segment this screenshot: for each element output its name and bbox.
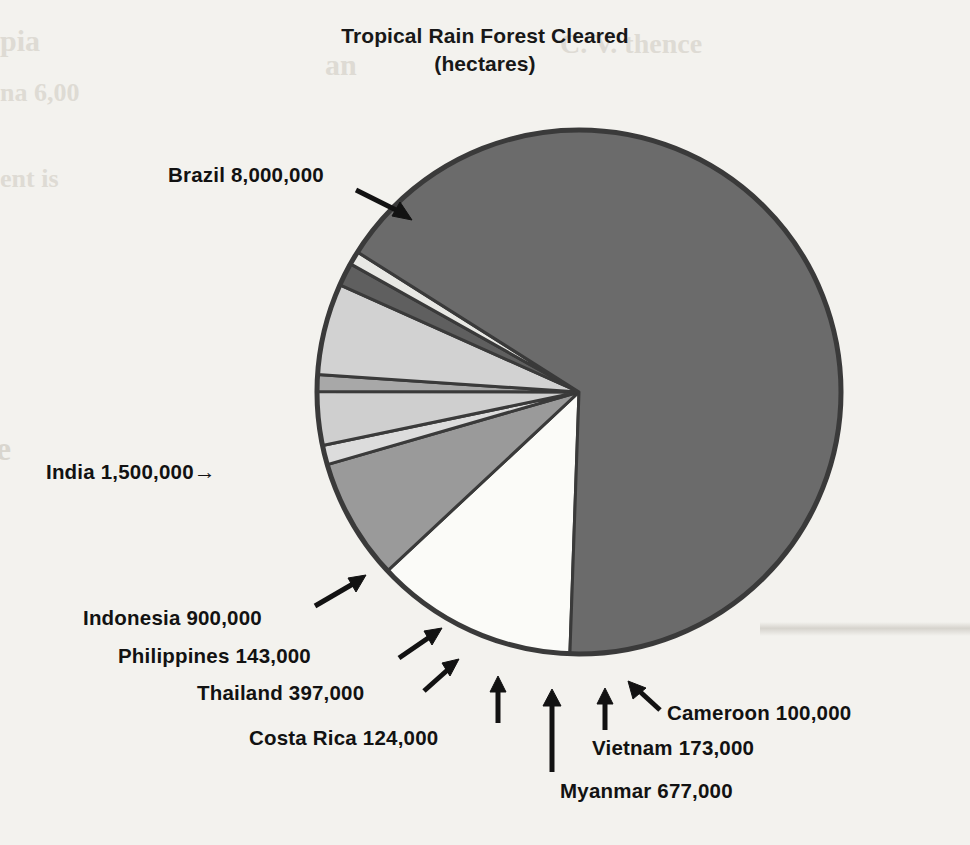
- leader-arrow-myanmar: [543, 689, 561, 772]
- slice-label-india: India 1,500,000→: [46, 459, 216, 485]
- leader-arrow-philippines: [399, 628, 442, 658]
- slice-label-indonesia: Indonesia 900,000: [83, 606, 262, 630]
- leader-arrow-indonesia: [315, 575, 366, 606]
- page-canvas: pia na 6,00 ent is an C. V. thence e ◎ T…: [0, 0, 970, 845]
- leader-arrow-thailand: [424, 659, 459, 691]
- leader-arrow-costa-rica: [490, 676, 506, 723]
- slice-label-cameroon: Cameroon 100,000: [667, 701, 851, 725]
- leader-arrow-vietnam: [597, 688, 613, 730]
- slice-label-brazil: Brazil 8,000,000: [168, 163, 324, 187]
- leader-arrow-cameroon: [628, 681, 660, 710]
- slice-label-india-text: India 1,500,000: [46, 460, 194, 483]
- slice-label-costa-rica: Costa Rica 124,000: [249, 726, 438, 750]
- slice-label-philippines: Philippines 143,000: [118, 644, 311, 668]
- right-arrow-icon: →: [194, 459, 216, 484]
- slice-label-vietnam: Vietnam 173,000: [592, 736, 754, 760]
- slice-label-myanmar: Myanmar 677,000: [560, 779, 733, 803]
- slice-label-thailand: Thailand 397,000: [197, 681, 364, 705]
